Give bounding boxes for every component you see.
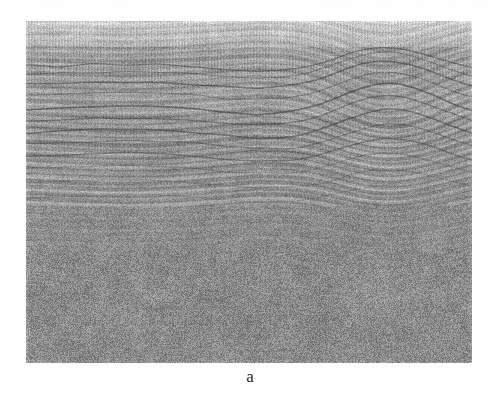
margin-smudge (108, 1, 130, 6)
margin-smudge (36, 1, 62, 6)
margin-smudge (444, 1, 456, 6)
margin-smudge (414, 1, 424, 6)
margin-smudge (322, 1, 352, 6)
seismic-section-panel (26, 21, 472, 363)
seismic-section-image (26, 21, 472, 363)
margin-smudge (474, 1, 488, 6)
page-margin-artifacts (0, 0, 500, 10)
margin-smudge (374, 1, 394, 6)
figure-root: a (0, 0, 500, 402)
figure-panel-label: a (0, 366, 500, 388)
